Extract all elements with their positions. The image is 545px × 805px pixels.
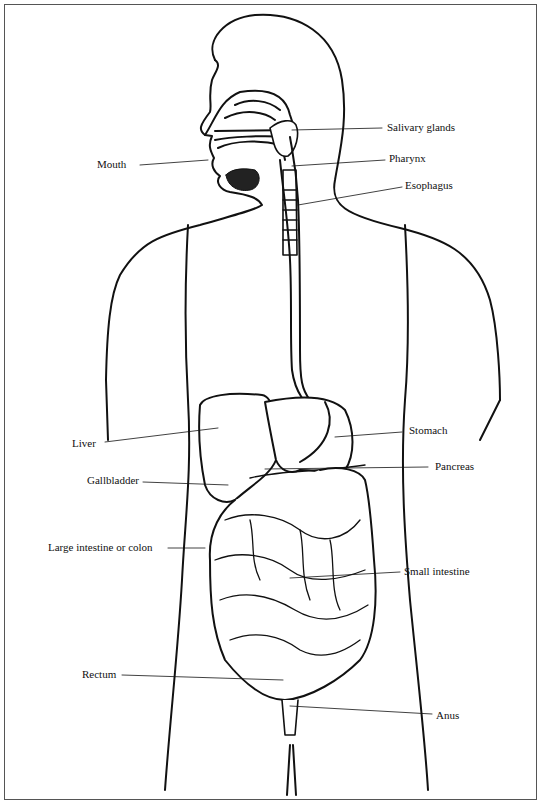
label-large-intestine: Large intestine or colon: [48, 541, 153, 553]
body-outline-drawing: [0, 0, 545, 805]
large-intestine: [210, 468, 376, 700]
stomach: [265, 397, 353, 472]
label-salivary-glands: Salivary glands: [387, 121, 455, 133]
label-small-intestine: Small intestine: [404, 565, 470, 577]
label-rectum: Rectum: [82, 668, 116, 680]
label-anus: Anus: [436, 709, 459, 721]
label-stomach: Stomach: [409, 424, 448, 436]
torso-right: [480, 400, 500, 440]
label-mouth: Mouth: [97, 158, 126, 170]
liver: [199, 394, 276, 502]
label-esophagus: Esophagus: [405, 179, 453, 191]
label-pharynx: Pharynx: [389, 152, 426, 164]
face-outline: [106, 60, 262, 380]
label-gallbladder: Gallbladder: [87, 474, 139, 486]
torso-left: [106, 380, 108, 440]
esophagus-tube: [290, 137, 310, 400]
label-pancreas: Pancreas: [435, 460, 474, 472]
label-liver: Liver: [72, 437, 96, 449]
rectum: [282, 700, 298, 735]
